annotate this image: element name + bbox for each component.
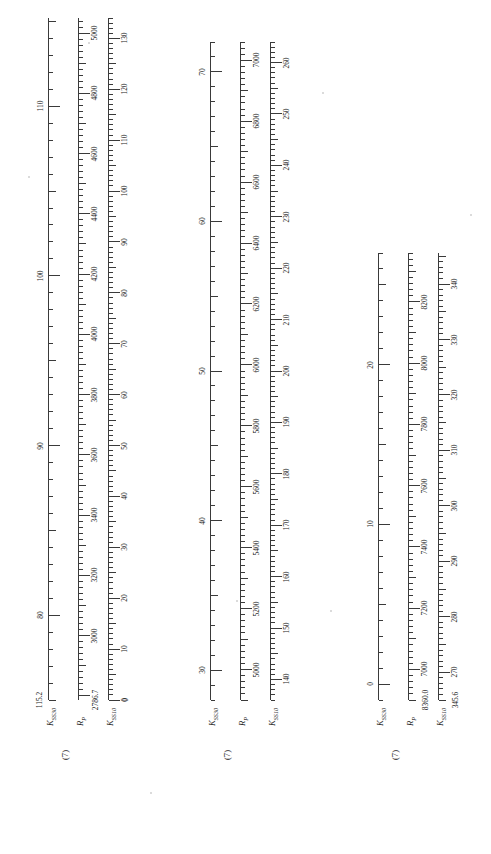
tick-label: 7600 [421,478,428,493]
scale-axis-k-ss10: 270280290300310320330340345.6 [438,253,439,700]
minor-tick [439,589,446,590]
tick-label: 300 [451,500,458,511]
major-tick [439,616,450,617]
minor-tick [439,688,443,689]
minor-tick [379,284,386,285]
minor-tick [379,428,383,429]
minor-tick [379,540,383,541]
minor-tick [409,381,413,382]
minor-tick [409,681,413,682]
minor-tick [409,565,413,566]
minor-tick [409,528,413,529]
minor-tick [409,375,413,376]
minor-tick [439,644,446,645]
major-tick [439,450,450,451]
minor-tick [439,311,446,312]
axis-name-k-ss10: KSS10 [435,708,447,726]
paper-speck [28,176,30,178]
minor-tick [409,651,413,652]
paper-speck [150,792,152,794]
axis-name-k-ss30: KSS30 [375,708,387,726]
minor-tick [439,345,443,346]
minor-tick [379,668,383,669]
minor-tick [439,455,443,456]
axis-name-symbol: K [435,720,445,726]
minor-tick [439,572,443,573]
nomogram-group: 01020KSS30700072007400760078008000820083… [0,0,491,854]
minor-tick [439,533,446,534]
minor-tick [379,588,383,589]
minor-tick [439,300,443,301]
minor-tick [409,448,413,449]
minor-tick [379,556,383,557]
minor-tick [439,694,443,695]
minor-tick [439,677,443,678]
major-tick [409,669,420,670]
scale-axis-k-ss30: 01020 [378,253,379,700]
minor-tick [409,663,413,664]
minor-tick [409,369,413,370]
minor-tick [379,253,383,254]
minor-tick [439,322,443,323]
minor-tick [439,422,446,423]
minor-tick [439,661,443,662]
minor-tick [439,383,443,384]
tick-label: 10 [367,521,374,528]
minor-tick [439,278,443,279]
minor-tick [439,289,443,290]
minor-tick [439,494,443,495]
minor-tick [379,636,383,637]
minor-tick [379,492,383,493]
minor-tick [439,500,443,501]
minor-tick [409,271,416,272]
axis-name-subscript: P [410,717,417,721]
minor-tick [379,300,383,301]
minor-tick [409,700,416,701]
major-tick [439,672,450,673]
minor-tick [439,566,443,567]
minor-tick [409,326,413,327]
minor-tick [379,460,383,461]
minor-tick [409,399,413,400]
minor-tick [409,455,416,456]
minor-tick [439,261,443,262]
tick-label: 310 [451,445,458,456]
tick-label: 330 [451,334,458,345]
minor-tick [409,632,413,633]
minor-tick [409,314,413,315]
minor-tick [439,444,443,445]
minor-tick [439,356,443,357]
minor-tick [379,652,383,653]
tick-label: 20 [367,361,374,368]
minor-tick [439,406,443,407]
minor-tick [409,614,413,615]
minor-tick [409,406,413,407]
minor-tick [439,272,443,273]
axis-name-subscript: SS30 [380,708,387,720]
major-tick [409,546,420,547]
minor-tick [439,539,443,540]
minor-tick [439,650,443,651]
minor-tick [409,644,413,645]
tick-label: 0 [367,682,374,686]
minor-tick [439,700,446,701]
minor-tick [379,476,383,477]
minor-tick [439,428,443,429]
minor-tick [439,306,443,307]
major-tick [379,364,390,365]
minor-tick [409,332,416,333]
group-tag: (7) [390,750,400,760]
axis-name-r-p: RP [405,717,417,726]
minor-tick [439,400,443,401]
major-tick [409,608,420,609]
minor-tick [409,540,413,541]
major-tick [409,485,420,486]
major-tick [439,284,450,285]
paper-speck [470,214,472,216]
minor-tick [409,467,413,468]
minor-tick [439,350,443,351]
minor-tick [439,478,446,479]
minor-tick [379,620,383,621]
major-tick [409,424,420,425]
minor-tick [439,389,443,390]
